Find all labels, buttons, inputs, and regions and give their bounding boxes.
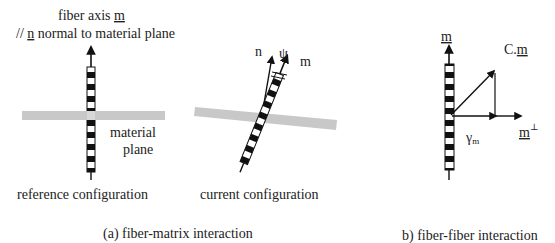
fiber-axis-title: fiber axis m	[58, 8, 125, 23]
current-configuration-label: current configuration	[200, 187, 319, 202]
normal-to-plane-title: // n normal to material plane	[16, 26, 175, 41]
shear-label-gamma: γm	[465, 130, 479, 146]
material-plane-label: material	[110, 125, 156, 140]
figure: fiber axis m // n normal to material pla…	[0, 0, 555, 243]
material-plane-label-2: plane	[123, 142, 153, 157]
stretched-vector-Cm	[451, 71, 494, 115]
reference-configuration-diagram: fiber axis m // n normal to material pla…	[16, 8, 175, 202]
perp-label-m: m⊥	[519, 122, 538, 140]
caption-b: b) fiber-fiber interaction	[402, 228, 538, 243]
angle-label-psi: ψ	[279, 46, 288, 61]
reference-configuration-label: reference configuration	[17, 187, 148, 202]
fiber-reference	[87, 67, 95, 180]
normal-label-n: n	[255, 44, 262, 59]
current-configuration-diagram: n ψ m current configuration	[194, 44, 337, 202]
caption-a: (a) fiber-matrix interaction	[103, 226, 253, 242]
fiber-fiber-diagram: m C.m γm m⊥	[441, 29, 538, 180]
fiber-label-m: m	[300, 54, 311, 69]
fiber-vector-label-m: m	[441, 29, 452, 44]
fiber-b	[445, 64, 454, 180]
stretched-label-Cm: C.m	[504, 42, 528, 57]
